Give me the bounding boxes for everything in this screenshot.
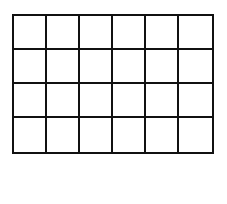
empty-grid-table: [12, 14, 214, 154]
grid-cell: [179, 50, 212, 84]
grid-cell: [146, 50, 179, 84]
grid-cell: [113, 84, 146, 118]
grid-cell: [80, 16, 113, 50]
grid-cell: [14, 118, 47, 152]
grid-cell: [113, 118, 146, 152]
grid-cell: [179, 16, 212, 50]
grid-cell: [14, 50, 47, 84]
grid-cell: [14, 84, 47, 118]
grid-cell: [113, 50, 146, 84]
grid-cell: [47, 50, 80, 84]
grid-cell: [47, 16, 80, 50]
grid-cell: [14, 16, 47, 50]
grid-cell: [47, 84, 80, 118]
grid-cell: [146, 118, 179, 152]
grid-cell: [113, 16, 146, 50]
grid-cell: [80, 84, 113, 118]
grid-cell: [179, 118, 212, 152]
grid-cell: [146, 84, 179, 118]
grid-cell: [47, 118, 80, 152]
grid-cell: [80, 50, 113, 84]
grid-cell: [146, 16, 179, 50]
grid-cell: [179, 84, 212, 118]
grid-cell: [80, 118, 113, 152]
